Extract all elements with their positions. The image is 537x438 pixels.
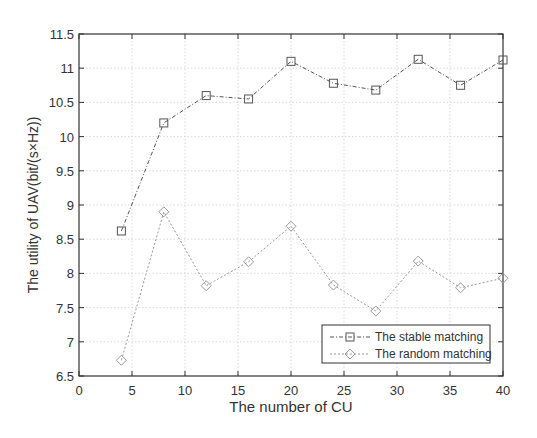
data-series: [116, 55, 508, 365]
y-tick-label: 10: [60, 130, 74, 145]
legend-label: The random matching: [375, 347, 492, 361]
x-tick-label: 10: [178, 383, 192, 398]
y-tick-label: 6.5: [56, 369, 74, 384]
line-chart: 05101520253035406.577.588.599.51010.5111…: [0, 0, 537, 438]
x-tick-label: 5: [128, 383, 135, 398]
x-tick-label: 20: [284, 383, 298, 398]
y-tick-label: 7.5: [56, 301, 74, 316]
y-axis-label: The utility of UAV(bit/(s×Hz)): [25, 117, 41, 294]
y-tick-label: 9.5: [56, 164, 74, 179]
y-tick-label: 8.5: [56, 232, 74, 247]
x-tick-label: 30: [390, 383, 404, 398]
x-axis-label: The number of CU: [229, 398, 352, 415]
y-tick-label: 11: [61, 61, 75, 76]
x-tick-label: 40: [496, 383, 510, 398]
y-tick-label: 7: [67, 335, 74, 350]
x-tick-label: 25: [337, 383, 351, 398]
x-tick-label: 0: [75, 383, 82, 398]
legend-label: The stable matching: [375, 330, 483, 344]
y-tick-label: 11.5: [50, 27, 74, 42]
y-tick-label: 9: [67, 198, 74, 213]
legend: The stable matchingThe random matching: [322, 325, 492, 363]
x-tick-label: 35: [443, 383, 457, 398]
series-stable-matching: [117, 55, 507, 235]
x-tick-label: 15: [231, 383, 245, 398]
y-tick-label: 8: [67, 266, 74, 281]
y-tick-label: 10.5: [49, 95, 74, 110]
